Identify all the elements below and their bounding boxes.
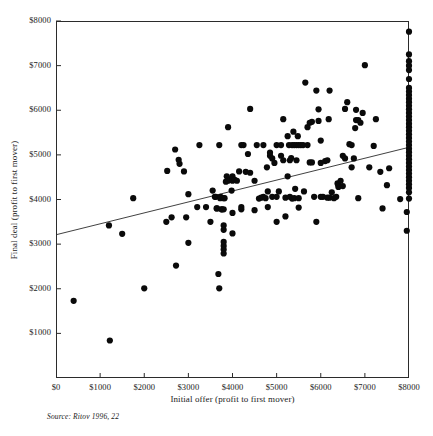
data-point — [107, 337, 113, 343]
data-point — [247, 170, 253, 176]
data-point — [326, 116, 332, 122]
data-point — [351, 155, 357, 161]
x-tick-label: $2000 — [114, 383, 174, 392]
data-point — [229, 230, 235, 236]
data-point — [176, 161, 182, 167]
data-point — [290, 129, 296, 135]
data-point — [225, 124, 231, 130]
data-point — [333, 194, 339, 200]
data-point — [234, 178, 240, 184]
data-point — [309, 159, 315, 165]
data-point — [265, 188, 271, 194]
data-point — [304, 142, 310, 148]
data-point — [397, 196, 403, 202]
data-point — [106, 222, 112, 228]
data-point — [207, 219, 213, 225]
data-point — [254, 142, 260, 148]
data-point — [164, 168, 170, 174]
data-point — [362, 62, 368, 68]
y-axis-tick-marks — [56, 21, 61, 333]
data-point — [360, 110, 366, 116]
data-point — [185, 240, 191, 246]
data-point — [313, 219, 319, 225]
data-point — [313, 88, 319, 94]
data-point — [141, 285, 147, 291]
data-point — [264, 164, 270, 170]
data-point — [309, 119, 315, 125]
data-point — [71, 298, 77, 304]
data-point — [406, 51, 412, 57]
data-point — [185, 191, 191, 197]
data-point — [271, 160, 277, 166]
data-point — [245, 151, 251, 157]
data-point — [216, 142, 222, 148]
data-point — [292, 186, 298, 192]
data-point — [265, 204, 271, 210]
data-point — [172, 146, 178, 152]
data-point — [342, 106, 348, 112]
data-point — [288, 155, 294, 161]
scatter-plot-figure: $1000$2000$3000$4000$5000$6000$7000$8000… — [0, 0, 433, 436]
data-point — [406, 85, 412, 91]
x-tick-label: $4000 — [203, 383, 263, 392]
data-point — [384, 182, 390, 188]
data-point — [221, 195, 227, 201]
data-point — [406, 76, 412, 82]
x-tick-label: $1000 — [70, 383, 130, 392]
data-point — [215, 271, 221, 277]
data-point — [349, 142, 355, 148]
x-tick-label: $5000 — [247, 383, 307, 392]
data-point — [203, 204, 209, 210]
data-point — [285, 173, 291, 179]
data-point — [406, 29, 412, 35]
data-point — [406, 58, 412, 64]
x-tick-label: $6000 — [291, 383, 351, 392]
data-point — [276, 188, 282, 194]
data-point — [296, 195, 302, 201]
data-point — [236, 168, 242, 174]
data-point — [386, 165, 392, 171]
data-point — [404, 228, 410, 234]
data-point — [373, 116, 379, 122]
data-point — [282, 213, 288, 219]
data-point — [355, 195, 361, 201]
data-point — [238, 204, 244, 210]
data-point — [315, 118, 321, 124]
data-point — [371, 143, 377, 149]
data-point — [194, 204, 200, 210]
x-tick-label: $0 — [26, 383, 86, 392]
data-point — [163, 219, 169, 225]
data-point — [280, 157, 286, 163]
x-axis-title: Initial offer (profit to first mover) — [56, 394, 409, 404]
data-point — [240, 142, 246, 148]
data-point — [404, 209, 410, 215]
data-point — [280, 116, 286, 122]
data-point — [260, 142, 266, 148]
data-point — [353, 107, 359, 113]
data-point — [278, 142, 284, 148]
data-point — [183, 214, 189, 220]
data-point — [221, 206, 227, 212]
data-point — [251, 178, 257, 184]
data-point — [318, 137, 324, 143]
data-point — [349, 164, 355, 170]
y-axis-title-wrap: Final deal (profit to first mover) — [6, 21, 22, 378]
data-point — [324, 157, 330, 163]
y-axis-title: Final deal (profit to first mover) — [9, 140, 19, 259]
data-point — [229, 210, 235, 216]
data-point — [216, 285, 222, 291]
data-point — [210, 187, 216, 193]
x-axis-tick-marks — [100, 373, 365, 378]
plot-data-layer — [56, 21, 409, 378]
data-point — [357, 120, 363, 126]
x-tick-label: $7000 — [335, 383, 395, 392]
data-point — [379, 205, 385, 211]
x-tick-label: $3000 — [158, 383, 218, 392]
data-point — [302, 79, 308, 85]
data-point — [229, 187, 235, 193]
data-point — [247, 106, 253, 112]
data-point — [315, 106, 321, 112]
x-tick-label: $8000 — [379, 383, 433, 392]
data-point — [311, 194, 317, 200]
data-point — [366, 164, 372, 170]
